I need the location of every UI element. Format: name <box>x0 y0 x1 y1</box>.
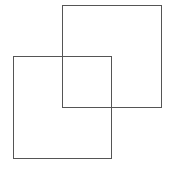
diagram-canvas <box>0 0 170 169</box>
square-bottom-left <box>13 56 112 159</box>
